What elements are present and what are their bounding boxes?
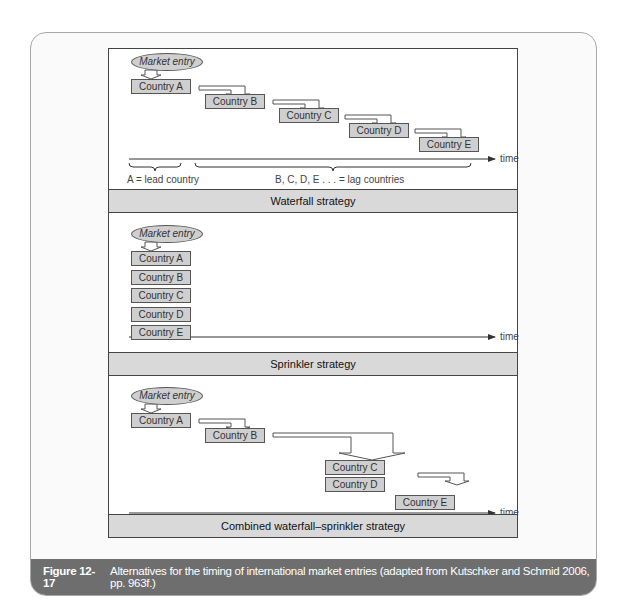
country-box: Country D xyxy=(325,477,385,492)
country-box: Country A xyxy=(131,251,191,266)
market-entry-node: Market entry xyxy=(131,53,203,71)
country-box: Country C xyxy=(131,288,191,303)
country-box: Country B xyxy=(205,428,265,443)
figure-caption-text: Alternatives for the timing of internati… xyxy=(110,565,596,589)
time-axis-label: time xyxy=(500,331,519,342)
country-box: Country A xyxy=(131,79,191,94)
country-box: Country A xyxy=(131,413,191,428)
country-box: Country B xyxy=(131,270,191,285)
lead-country-label: A = lead country xyxy=(127,174,199,185)
country-box: Country E xyxy=(131,325,191,340)
figure-caption: Figure 12-17 Alternatives for the timing… xyxy=(31,559,596,595)
market-entry-node: Market entry xyxy=(131,225,203,243)
country-box: Country E xyxy=(419,137,479,152)
country-box: Country D xyxy=(349,123,409,138)
waterfall-strategy-title: Waterfall strategy xyxy=(109,189,517,213)
lag-countries-label: B, C, D, E . . . = lag countries xyxy=(275,174,404,185)
country-box: Country C xyxy=(279,108,339,123)
country-box: Country B xyxy=(205,94,265,109)
figure-number: Figure 12-17 xyxy=(43,565,102,589)
sprinkler-strategy-title: Sprinkler strategy xyxy=(109,352,517,376)
country-box: Country D xyxy=(131,307,191,322)
combined-strategy-title: Combined waterfall–sprinkler strategy xyxy=(109,514,517,538)
market-entry-node: Market entry xyxy=(131,387,203,405)
diagram-panel: Market entry Country A Country B Country… xyxy=(108,48,518,538)
country-box: Country C xyxy=(325,460,385,475)
time-axis-label: time xyxy=(500,153,519,164)
country-box: Country E xyxy=(395,495,455,510)
